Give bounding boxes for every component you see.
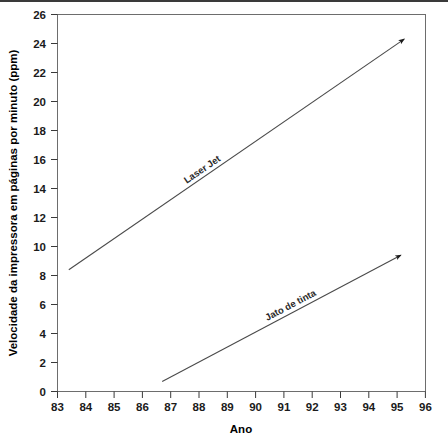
x-tick-label-84: 84	[79, 401, 92, 413]
y-tick-label-18: 18	[33, 125, 46, 137]
x-tick-label-94: 94	[362, 401, 375, 413]
y-tick-label-16: 16	[33, 154, 46, 166]
y-tick-label-0: 0	[40, 386, 46, 398]
y-tick-label-2: 2	[40, 357, 46, 369]
x-tick-label-92: 92	[306, 401, 319, 413]
x-tick-label-89: 89	[221, 401, 234, 413]
y-tick-label-26: 26	[33, 9, 46, 21]
x-axis-ticks	[58, 392, 426, 399]
chart-svg: 0 2 4 6 8 10 12 14 16 18 20 22 24 26	[0, 0, 448, 443]
y-tick-label-24: 24	[33, 38, 46, 50]
plot-frame	[58, 15, 426, 392]
x-tick-label-88: 88	[193, 401, 206, 413]
y-axis-tick-labels: 0 2 4 6 8 10 12 14 16 18 20 22 24 26	[33, 9, 46, 398]
y-tick-label-12: 12	[33, 212, 46, 224]
printer-speed-line-chart: 0 2 4 6 8 10 12 14 16 18 20 22 24 26	[0, 0, 448, 443]
x-tick-label-86: 86	[136, 401, 149, 413]
y-tick-label-6: 6	[40, 299, 46, 311]
x-axis-title: Ano	[230, 423, 252, 435]
y-tick-label-20: 20	[33, 96, 46, 108]
y-axis-title: Velocidade da impressora em páginas por …	[7, 49, 19, 356]
x-tick-label-91: 91	[278, 401, 291, 413]
y-axis-ticks	[51, 15, 58, 392]
x-tick-label-85: 85	[108, 401, 121, 413]
y-tick-label-14: 14	[33, 183, 46, 195]
x-axis-tick-labels: 83 84 85 86 87 88 89 90 91 92 93 94 95 9…	[51, 401, 432, 413]
x-tick-label-83: 83	[51, 401, 64, 413]
x-tick-label-93: 93	[334, 401, 347, 413]
x-tick-label-90: 90	[249, 401, 262, 413]
y-tick-label-8: 8	[40, 270, 47, 282]
y-tick-label-22: 22	[33, 67, 46, 79]
y-tick-label-10: 10	[33, 241, 46, 253]
x-tick-label-96: 96	[419, 401, 432, 413]
x-tick-label-87: 87	[164, 401, 177, 413]
x-tick-label-95: 95	[391, 401, 404, 413]
y-tick-label-4: 4	[40, 328, 47, 340]
